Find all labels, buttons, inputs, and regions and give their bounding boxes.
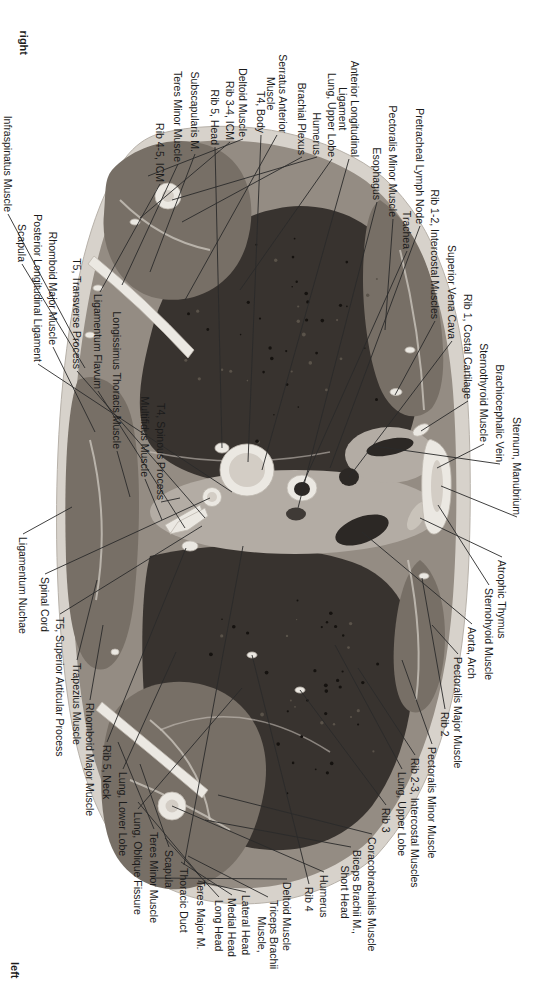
- lung-speck: [206, 328, 209, 331]
- lung-speck: [291, 370, 293, 372]
- anatomy-label: Humerus: [311, 112, 323, 155]
- lung-speck: [347, 646, 350, 649]
- anatomy-label: Humerus: [318, 875, 330, 918]
- lung-speck: [325, 689, 329, 693]
- anatomy-label: Sternum, Manubrium: [511, 417, 523, 515]
- anatomy-label: Sternothyroid Muscle: [478, 343, 490, 442]
- anatomy-label: Multifidus Muscle: [139, 396, 151, 477]
- lung-speck: [336, 319, 338, 321]
- anatomy-label: Pretracheal Lymph Node: [414, 108, 426, 224]
- lung-speck: [375, 398, 378, 401]
- anatomy-label: Longissimus Thoracis Muscle: [111, 311, 123, 449]
- lung-speck: [290, 700, 292, 702]
- lung-speck: [339, 304, 342, 307]
- lung-speck: [309, 361, 313, 365]
- anatomy-label: Lateral Head: [240, 895, 252, 955]
- lung-speck: [268, 346, 271, 349]
- anatomy-label: Rib 1, Costal Cartilage: [462, 294, 474, 399]
- lung-speck: [286, 635, 288, 637]
- anatomy-label: Trachea: [401, 211, 413, 249]
- lung-speck: [247, 380, 249, 382]
- anatomy-label: Teres Minor Muscle: [172, 71, 184, 162]
- lung-speck: [313, 669, 316, 672]
- lung-speck: [364, 347, 365, 348]
- anatomy-label: Rhomboid Major Muscle: [47, 232, 59, 345]
- anatomy-label: T5, Superior Articular Process: [54, 617, 66, 756]
- lung-speck: [276, 742, 280, 746]
- lung-speck: [221, 369, 223, 371]
- lung-speck: [336, 679, 339, 682]
- lung-speck: [326, 771, 329, 774]
- rib-section: [419, 573, 429, 579]
- lung-speck: [372, 750, 374, 752]
- lung-speck: [198, 377, 201, 380]
- cross-section-illustration: [0, 0, 538, 982]
- lung-speck: [329, 611, 333, 615]
- lung-speck: [324, 683, 328, 687]
- rib-section: [390, 389, 402, 396]
- lung-speck: [304, 292, 308, 296]
- lung-speck: [346, 261, 349, 264]
- lung-speck: [330, 762, 334, 766]
- anatomy-label: Teres Minor Muscle: [148, 832, 160, 923]
- anatomy-label: Long Head: [213, 900, 225, 951]
- lung-speck: [325, 389, 328, 392]
- lung-speck: [209, 652, 213, 656]
- lung-speck: [240, 334, 242, 336]
- lung-speck: [321, 319, 325, 323]
- anatomy-label: Rib 2-3, Intercostal Muscles: [409, 758, 421, 888]
- anatomy-label: Superior Vena Cava: [446, 245, 458, 339]
- anatomy-label: Aorta, Arch: [466, 627, 478, 679]
- anatomy-label: Sternohyoid Muscle: [483, 588, 495, 680]
- spinal-cord-section: [207, 492, 217, 502]
- anatomy-label: Ligamentum Nuchae: [17, 537, 29, 634]
- lung-speck: [294, 706, 296, 708]
- lung-speck: [376, 663, 379, 666]
- lung-speck: [247, 301, 250, 304]
- lung-speck: [292, 256, 295, 259]
- lung-speck: [326, 621, 328, 623]
- anatomy-label: Coracobrachialis Muscle: [366, 837, 378, 951]
- anatomy-label: Spinal Cord: [39, 577, 51, 632]
- anatomy-label: Rib 5, Head: [209, 90, 221, 145]
- anatomy-label: Scapula: [16, 224, 28, 262]
- anatomy-label: T5, Transverse Process: [71, 258, 83, 369]
- anatomy-label: Ligamentum Flavum: [92, 294, 104, 389]
- anatomy-label: Medial Head: [226, 898, 238, 957]
- lung-speck: [376, 278, 378, 280]
- lung-speck: [305, 318, 308, 321]
- lung-speck: [297, 305, 299, 307]
- lung-speck: [246, 631, 249, 634]
- lung-speck: [315, 352, 318, 355]
- anatomy-label: Rib 3-4, ICM: [224, 81, 236, 140]
- anatomy-label: Lung, Upper Lobe: [396, 772, 408, 856]
- anatomy-label: Anterior Longitudinal Ligament: [337, 61, 361, 157]
- anatomy-label: Biceps Brachii M., Short Head: [339, 850, 363, 934]
- lung-speck: [315, 768, 317, 770]
- anatomy-label: Rib 1-2, Intercostal Muscles: [429, 189, 441, 319]
- lung-speck: [298, 406, 300, 408]
- lung-speck: [296, 281, 298, 283]
- lung-speck: [357, 709, 360, 712]
- lung-speck: [292, 762, 295, 765]
- anatomy-label: Lung, Oblique Fissure: [132, 812, 144, 915]
- anatomy-label: Scapula: [163, 850, 175, 888]
- anatomy-label: Rib 5, Neck: [101, 745, 113, 799]
- lung-speck: [220, 634, 223, 637]
- lung-speck: [350, 716, 352, 718]
- lung-speck: [262, 371, 265, 374]
- orientation-label-right: right: [18, 31, 30, 55]
- anatomy-label: Trapezius Muscle: [71, 663, 83, 745]
- lung-speck: [334, 625, 337, 628]
- lung-speck: [302, 333, 306, 337]
- lung-speck: [366, 294, 369, 297]
- lung-speck: [342, 670, 344, 672]
- anatomy-label: Posterior Longitudinal Ligament: [32, 214, 44, 362]
- lung-speck: [221, 619, 223, 621]
- lung-speck: [274, 259, 277, 262]
- lung-speck: [229, 370, 232, 373]
- lung-speck: [297, 320, 300, 323]
- anatomy-label: Lung, Lower Lobe: [117, 772, 129, 856]
- lung-speck: [349, 622, 352, 625]
- anatomy-label: T4, Spinous Process: [155, 403, 167, 500]
